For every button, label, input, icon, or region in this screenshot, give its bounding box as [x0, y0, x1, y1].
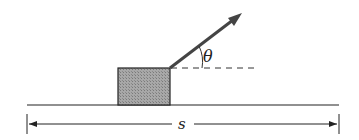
- block: [118, 68, 170, 105]
- work-diagram: θ s: [0, 0, 359, 140]
- angle-label: θ: [203, 47, 213, 66]
- displacement-label: s: [178, 115, 186, 133]
